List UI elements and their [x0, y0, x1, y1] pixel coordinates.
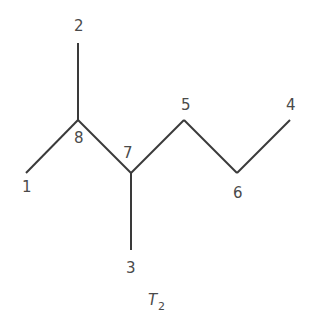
edges	[26, 43, 290, 250]
node-label-3: 3	[126, 259, 136, 277]
node-label-6: 6	[233, 184, 243, 202]
edge-8-1	[26, 120, 78, 173]
edge-6-4	[237, 120, 290, 173]
edge-5-6	[184, 120, 237, 173]
node-label-2: 2	[74, 17, 84, 35]
node-label-4: 4	[286, 96, 296, 114]
node-label-5: 5	[181, 96, 191, 114]
tree-diagram: 12345678 T 2	[0, 0, 310, 334]
edge-7-5	[131, 120, 184, 173]
diagram-caption-subscript: 2	[158, 300, 165, 313]
node-label-8: 8	[74, 129, 84, 147]
node-labels: 12345678	[22, 17, 296, 277]
node-label-1: 1	[22, 178, 32, 196]
node-label-7: 7	[123, 144, 133, 162]
